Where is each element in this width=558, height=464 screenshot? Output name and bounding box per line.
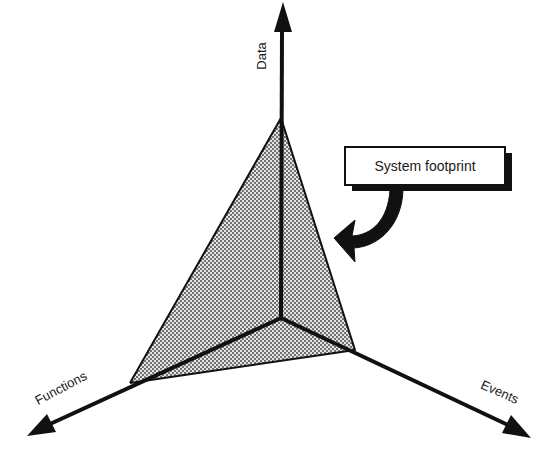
callout-curved-arrow-icon [334,190,403,262]
data-axis-label: Data [254,42,269,70]
footprint-shape [130,118,355,383]
events-axis-label: Events [479,377,522,407]
events-axis-arrowhead-icon [502,415,531,438]
callout-label: System footprint [374,158,475,174]
events-axis-line [281,318,508,425]
data-axis-arrowhead-icon [274,2,292,32]
functions-axis-arrowhead-icon [27,414,56,436]
functions-axis-label: Functions [32,368,89,408]
callout: System footprint [345,147,512,191]
system-footprint-diagram: Data Functions Events System footprint [0,0,558,464]
data-axis-line [281,30,282,318]
